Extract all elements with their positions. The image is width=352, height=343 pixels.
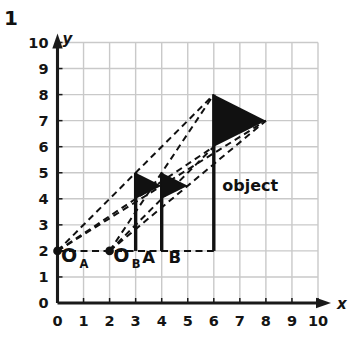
x-tick-label: 9 xyxy=(287,313,297,329)
y-tick-label: 6 xyxy=(38,139,48,155)
x-tick-label: 6 xyxy=(209,313,219,329)
y-tick-label: 1 xyxy=(38,269,48,285)
x-tick-label: 7 xyxy=(235,313,245,329)
y-axis-label: y xyxy=(63,30,74,48)
x-tick-label: 1 xyxy=(79,313,89,329)
x-tick-label: 10 xyxy=(308,313,328,329)
y-axis-arrowhead xyxy=(52,34,62,49)
x-tick-label: 2 xyxy=(105,313,115,329)
axis-lines xyxy=(52,34,331,309)
observer-b-label: O xyxy=(113,244,129,266)
object-label: object xyxy=(222,176,278,195)
x-tick-label: 8 xyxy=(261,313,271,329)
observer-a-subscript: A xyxy=(80,257,89,271)
y-tick-label: 4 xyxy=(38,191,48,207)
image-flag-label: A xyxy=(142,248,155,267)
problem-number: 1 xyxy=(4,8,17,28)
x-tick-label: 4 xyxy=(157,313,167,329)
image-flag-label: B xyxy=(168,248,181,267)
x-axis-label: x xyxy=(336,295,348,313)
y-tick-label: 10 xyxy=(28,35,48,51)
y-tick-label: 7 xyxy=(38,113,48,129)
y-tick-label: 9 xyxy=(38,61,48,77)
x-tick-label: 3 xyxy=(131,313,141,329)
observer-b-subscript: B xyxy=(132,257,141,271)
y-tick-label: 2 xyxy=(38,243,48,259)
y-tick-label: 3 xyxy=(38,217,48,233)
y-tick-label: 8 xyxy=(38,87,48,103)
x-tick-label: 0 xyxy=(52,313,62,329)
y-tick-label: 0 xyxy=(38,295,48,311)
x-tick-label: 5 xyxy=(183,313,193,329)
coordinate-plot: 012345678910012345678910xy OAOBobjectAB xyxy=(0,0,352,343)
physics-ray-diagram-figure: 1 012345678910012345678910xy OAOBobjectA… xyxy=(0,0,352,343)
flag-triangle xyxy=(136,173,162,199)
y-tick-label: 5 xyxy=(38,165,48,181)
observer-a-label: O xyxy=(61,244,77,266)
